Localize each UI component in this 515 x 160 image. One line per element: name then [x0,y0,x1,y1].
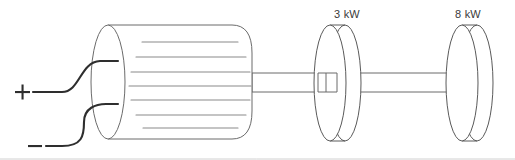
diagram-canvas [0,0,515,160]
minus-terminal-icon [28,145,42,147]
disc-1-pulley [314,25,361,141]
disc-2-power-label: 8 kW [455,8,481,20]
shaft-disc-1-to-disc-2 [345,73,462,92]
disc-2-pulley [446,25,493,141]
plus-terminal-icon [15,85,30,100]
disc-1-power-label: 3 kW [334,8,360,20]
motor-shaft-load-diagram: 3 kW 8 kW [0,0,515,160]
